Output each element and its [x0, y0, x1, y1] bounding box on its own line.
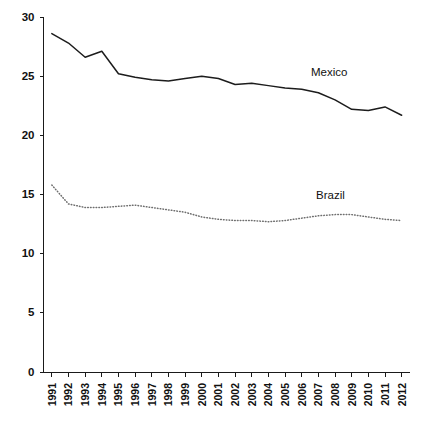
y-axis-tick-label: 20	[22, 129, 35, 141]
x-axis-tick-label: 1996	[129, 383, 141, 407]
x-axis-tick-label: 2009	[346, 383, 358, 407]
x-axis-tick-label: 2007	[312, 383, 324, 407]
y-axis-tick-label: 0	[28, 366, 34, 378]
series-line-mexico	[52, 34, 402, 116]
x-axis-tick-label: 2006	[296, 383, 308, 407]
x-axis-label-group: 1991199219931994199519961997199819992000…	[46, 383, 408, 407]
x-axis-tick-label: 2003	[246, 383, 258, 407]
y-axis-tick-label: 30	[22, 11, 35, 23]
series-label-mexico: Mexico	[311, 66, 347, 78]
series-label-brazil: Brazil	[316, 189, 345, 201]
x-axis-tick-label: 1994	[96, 383, 108, 407]
x-axis-tick-label: 2002	[229, 383, 241, 407]
x-axis-tick-label: 1998	[162, 383, 174, 407]
y-axis-tick-group	[40, 17, 44, 372]
x-axis-tick-label: 1991	[46, 383, 58, 407]
x-axis-tick-label: 1999	[179, 383, 191, 407]
line-chart: 051015202530 199119921993199419951996199…	[0, 0, 422, 435]
y-axis-tick-label: 25	[22, 70, 35, 82]
y-axis-tick-label: 5	[28, 306, 35, 318]
series-group	[52, 34, 402, 222]
x-axis-tick-label: 2000	[196, 383, 208, 407]
chart-page: 051015202530 199119921993199419951996199…	[0, 0, 422, 435]
x-axis-tick-label: 2010	[362, 383, 374, 407]
y-axis-tick-label: 10	[22, 247, 35, 259]
x-axis-tick-label: 2004	[262, 383, 274, 407]
series-line-brazil	[52, 185, 402, 222]
x-axis-tick-label: 1995	[112, 383, 124, 407]
x-axis-tick-label: 2005	[279, 383, 291, 407]
x-axis-tick-label: 2011	[379, 383, 391, 406]
x-axis-tick-label: 1997	[146, 383, 158, 407]
x-axis-tick-label: 2008	[329, 383, 341, 407]
series-annotation-group: MexicoBrazil	[311, 66, 347, 201]
x-axis-tick-label: 1992	[62, 383, 74, 407]
x-axis-tick-label: 2001	[212, 383, 224, 407]
y-axis-tick-label: 15	[22, 188, 35, 200]
x-axis-tick-label: 1993	[79, 383, 91, 407]
y-axis-label-group: 051015202530	[22, 11, 35, 378]
x-axis-tick-label: 2012	[396, 383, 408, 407]
